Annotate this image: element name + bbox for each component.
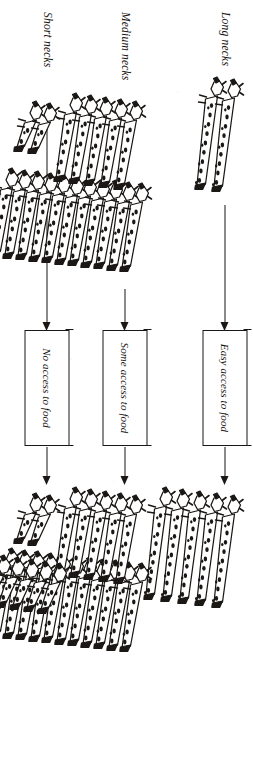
foodbox-no-access-label: No access to food	[41, 348, 53, 428]
foodbox-some-tick-right	[143, 445, 151, 446]
label-medium-necks: Medium necks	[119, 12, 131, 81]
foodbox-no-tick-left	[65, 329, 73, 330]
foodbox-some-access-label: Some access to food	[119, 343, 131, 434]
foodbox-easy-access: Easy access to food	[202, 330, 247, 446]
giraffe-icon	[37, 560, 71, 614]
foodbox-no-tick-right	[65, 445, 73, 446]
foodbox-no-access: No access to food	[24, 330, 69, 446]
foodbox-easy-access-label: Easy access to food	[219, 344, 231, 432]
giraffe-icon	[211, 492, 245, 608]
giraffe-icon	[119, 180, 153, 272]
giraffe-icon	[119, 560, 153, 652]
arrow-medium-out-line	[124, 447, 125, 477]
foodbox-some-access: Some access to food	[102, 330, 147, 446]
foodbox-easy-tick-right	[243, 445, 251, 446]
giraffe-icon	[113, 98, 147, 190]
diagram-panel: Long necks	[0, 0, 253, 764]
label-short-necks: Short necks	[41, 12, 53, 68]
arrow-short-out-line	[46, 447, 47, 477]
arrow-long-out-head	[221, 476, 229, 485]
arrow-medium-line	[124, 289, 125, 323]
arrow-medium-out-head	[121, 476, 129, 485]
label-long-necks: Long necks	[219, 12, 231, 66]
giraffe-icon	[27, 492, 61, 546]
diagram-canvas: Long necks	[0, 0, 253, 764]
foodbox-easy-tick-left	[243, 329, 251, 330]
arrow-short-out-head	[43, 476, 51, 485]
giraffe-icon	[211, 76, 245, 192]
giraffe-icon	[27, 100, 61, 154]
arrow-long-out-line	[224, 447, 225, 477]
foodbox-some-tick-left	[143, 329, 151, 330]
arrow-long-line	[224, 205, 225, 323]
